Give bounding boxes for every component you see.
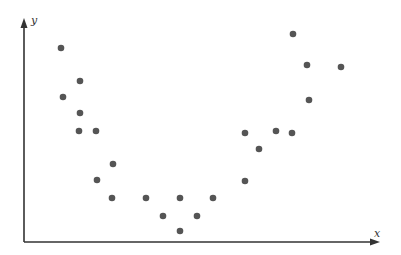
data-point (304, 62, 311, 69)
data-point (338, 64, 345, 71)
data-point (210, 195, 217, 202)
data-point (273, 128, 280, 135)
data-point (109, 195, 116, 202)
data-point (76, 128, 83, 135)
data-point (143, 195, 150, 202)
plot-area: y x (21, 14, 382, 246)
data-point (160, 213, 167, 220)
data-points (58, 31, 345, 235)
data-point (77, 110, 84, 117)
y-axis-arrow-icon (21, 18, 28, 28)
data-point (77, 78, 84, 85)
data-point (177, 195, 184, 202)
x-axis-label: x (374, 227, 381, 240)
data-point (177, 228, 184, 235)
data-point (58, 45, 65, 52)
data-point (242, 130, 249, 137)
data-point (194, 213, 201, 220)
data-point (60, 94, 67, 101)
data-point (289, 130, 296, 137)
y-axis-label: y (30, 14, 38, 27)
data-point (94, 177, 101, 184)
data-point (290, 31, 297, 38)
data-point (110, 161, 117, 168)
data-point (306, 97, 313, 104)
data-point (242, 178, 249, 185)
data-point (256, 146, 263, 153)
data-point (93, 128, 100, 135)
scatter-chart: y x (0, 0, 401, 255)
